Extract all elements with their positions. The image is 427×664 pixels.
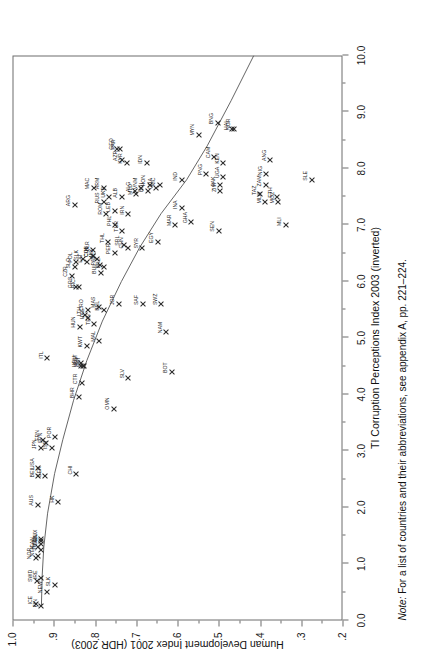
point-label: GER	[36, 466, 41, 477]
data-point	[308, 176, 315, 183]
data-point	[54, 498, 61, 505]
data-point	[162, 328, 169, 335]
x-tick	[342, 111, 348, 112]
data-point	[111, 207, 118, 214]
data-point	[171, 221, 178, 228]
data-point	[143, 159, 150, 166]
data-point	[210, 153, 217, 160]
x-tick-label: 1.0	[355, 557, 366, 571]
data-point	[273, 193, 280, 200]
point-label: RIC	[70, 279, 75, 288]
x-tick-label: 8.0	[355, 161, 366, 175]
data-point	[110, 405, 117, 412]
x-tick-minor	[342, 308, 345, 309]
data-point	[195, 131, 202, 138]
data-point	[262, 170, 269, 177]
point-label: SLE	[302, 171, 307, 181]
x-tick	[342, 224, 348, 225]
data-point	[75, 393, 82, 400]
data-point	[178, 204, 185, 211]
y-tick-minor	[280, 620, 281, 623]
x-tick-label: 7.0	[355, 218, 366, 232]
data-point	[118, 227, 125, 234]
point-label: ETH	[267, 187, 272, 197]
data-point	[168, 368, 175, 375]
data-point	[72, 470, 79, 477]
point-label: NIG	[257, 165, 262, 174]
x-tick-minor	[342, 365, 345, 366]
y-tick	[342, 620, 343, 626]
point-label: ARM	[94, 177, 99, 189]
y-tick	[136, 620, 137, 626]
point-label: SWZ	[31, 539, 36, 551]
x-axis-title: TI Corruption Perceptions Index 2003 (in…	[368, 55, 380, 620]
point-label: MYN	[189, 124, 194, 136]
data-point	[230, 125, 237, 132]
point-label: NAM	[157, 321, 162, 333]
point-label: HK	[49, 495, 54, 502]
data-point	[118, 193, 125, 200]
y-tick-minor	[198, 620, 199, 623]
x-tick-label: 2.0	[355, 500, 366, 514]
point-label: IDN	[137, 154, 142, 163]
data-point	[154, 238, 161, 245]
data-point	[41, 472, 48, 479]
point-label: BLR	[84, 241, 89, 251]
x-tick-minor	[342, 139, 345, 140]
point-label: PAR	[110, 139, 115, 149]
point-label: MAR	[166, 214, 171, 226]
data-point	[43, 354, 50, 361]
data-point	[187, 218, 194, 225]
x-tick-label: 0.0	[355, 613, 366, 627]
point-label: ARG	[65, 194, 70, 205]
x-tick-label: 3.0	[355, 444, 366, 458]
data-point	[75, 283, 82, 290]
point-label: CTR	[72, 373, 77, 384]
data-point	[138, 244, 145, 251]
point-label: SYR	[133, 237, 138, 248]
point-label: ALB	[112, 187, 117, 197]
point-label: BNG	[208, 113, 213, 124]
point-label: KYR	[117, 153, 122, 164]
y-tick-minor	[33, 620, 34, 623]
y-tick	[12, 620, 13, 626]
point-label: PAK	[210, 176, 215, 186]
point-label: IRN	[119, 205, 124, 214]
data-point	[219, 173, 226, 180]
x-tick-minor	[342, 478, 345, 479]
figure-page: ICEFINSWDNEWIRESLKNORNTHCANDENUKSWZLUXAU…	[0, 0, 427, 664]
x-tick	[342, 337, 348, 338]
data-point	[146, 181, 153, 188]
y-tick	[53, 620, 54, 626]
data-point	[37, 546, 44, 553]
x-tick-minor	[342, 82, 345, 83]
data-point	[78, 379, 85, 386]
note-prefix: Note:	[396, 596, 407, 620]
point-label: USA	[29, 458, 34, 469]
x-tick-minor	[342, 252, 345, 253]
y-tick-minor	[239, 620, 240, 623]
x-tick-minor	[342, 195, 345, 196]
data-point	[68, 272, 75, 279]
point-label: IND	[172, 171, 177, 180]
point-label: IRE	[32, 570, 37, 579]
point-label: SLK	[73, 250, 78, 260]
point-label: GHA	[182, 211, 187, 222]
point-label: JOR	[109, 294, 114, 304]
point-label: CHI	[67, 465, 72, 474]
y-tick-minor	[74, 620, 75, 623]
data-point	[282, 221, 289, 228]
data-point	[37, 602, 44, 609]
data-point	[76, 323, 83, 330]
point-label: ANG	[261, 149, 266, 160]
data-point	[123, 159, 130, 166]
rotated-figure: ICEFINSWDNEWIRESLKNORNTHCANDENUKSWZLUXAU…	[0, 0, 427, 664]
x-tick	[342, 54, 348, 55]
point-label: KWT	[77, 335, 82, 347]
point-label: BHR	[69, 387, 74, 398]
y-tick	[260, 620, 261, 626]
data-point	[111, 221, 118, 228]
point-label: URU	[71, 356, 76, 367]
x-tick	[342, 563, 348, 564]
y-tick-minor	[156, 620, 157, 623]
